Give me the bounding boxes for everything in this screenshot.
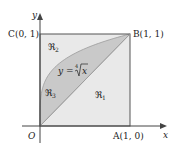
svg-text:x: x bbox=[82, 66, 87, 76]
y-axis-arrow-icon bbox=[37, 13, 43, 20]
x-axis-arrow-icon bbox=[160, 123, 167, 129]
svg-text:4: 4 bbox=[75, 63, 78, 69]
region-diagram: y x C(0, 1) B(1, 1) O A(1, 0) ℜ2 ℜ3 ℜ1 y… bbox=[0, 0, 176, 151]
x-axis-label: x bbox=[163, 130, 168, 140]
point-a-label: A(1, 0) bbox=[112, 131, 144, 141]
point-c-label: C(0, 1) bbox=[8, 29, 39, 39]
point-o-label: O bbox=[28, 131, 36, 141]
svg-text:y =: y = bbox=[57, 66, 74, 76]
y-axis-label: y bbox=[31, 10, 38, 20]
point-b-label: B(1, 1) bbox=[133, 29, 164, 39]
